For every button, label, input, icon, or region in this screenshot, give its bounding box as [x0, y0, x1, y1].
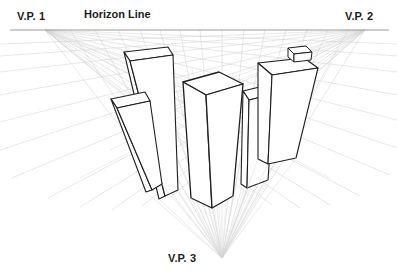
building-center-tower	[183, 72, 243, 208]
building-right-tower	[258, 58, 318, 164]
vanishing-point-3-label: V.P. 3	[168, 252, 196, 264]
horizon-line-label: Horizon Line	[84, 8, 151, 20]
building-penthouse-box	[288, 46, 312, 62]
vanishing-point-2-label: V.P. 2	[345, 10, 373, 22]
vanishing-point-1-label: V.P. 1	[17, 10, 45, 22]
three-point-perspective-drawing	[0, 0, 397, 278]
perspective-diagram-canvas: V.P. 1 Horizon Line V.P. 2 V.P. 3	[0, 0, 397, 278]
